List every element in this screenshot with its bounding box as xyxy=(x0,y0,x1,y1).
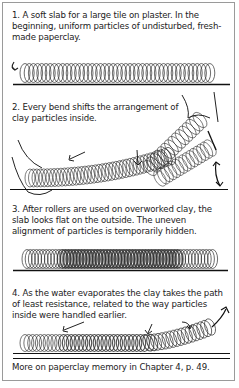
panel-4-illustration xyxy=(13,307,230,359)
right-hand-outline xyxy=(182,95,210,118)
panel-3-illustration xyxy=(13,250,228,271)
panel-2-illustration xyxy=(10,92,228,195)
arrow-icon xyxy=(137,150,138,165)
arrow-icon xyxy=(64,322,84,330)
illustrations: /* placeholder */ xyxy=(0,0,239,388)
up-arrow-icon xyxy=(212,309,226,327)
arrow-icon xyxy=(70,152,85,159)
